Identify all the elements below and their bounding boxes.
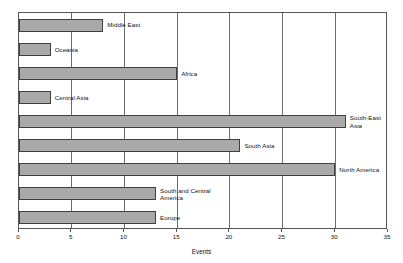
bar-label: North America [339, 166, 379, 173]
bar-row[interactable]: South Asia [19, 139, 386, 152]
bar-row[interactable]: South and Central America [19, 187, 386, 200]
x-tick-label: 15 [173, 233, 180, 240]
bar[interactable] [19, 163, 335, 176]
bar-row[interactable]: North America [19, 163, 386, 176]
bar-label: Oceania [55, 46, 78, 53]
bar-row[interactable]: Central Asia [19, 91, 386, 104]
bar[interactable] [19, 211, 156, 224]
bar-label: Africa [181, 70, 197, 77]
bar-label: Central Asia [55, 94, 89, 101]
tick-mark-25 [281, 229, 282, 232]
x-tick-label: 25 [278, 233, 285, 240]
bar-label: South and Central America [160, 187, 211, 201]
bar-row[interactable]: Oceania [19, 43, 386, 56]
bar-row[interactable]: Europe [19, 211, 386, 224]
bar-row[interactable]: South-East Asia [19, 115, 386, 128]
plot-area: Middle EastOceaniaAfricaCentral AsiaSout… [18, 12, 387, 229]
bar-row[interactable]: Middle East [19, 19, 386, 32]
tick-mark-15 [176, 229, 177, 232]
bar-label: Europe [160, 214, 180, 221]
bar[interactable] [19, 19, 103, 32]
bar[interactable] [19, 43, 51, 56]
tick-mark-20 [228, 229, 229, 232]
bar[interactable] [19, 67, 177, 80]
bar-label: Middle East [107, 21, 140, 28]
bar-chart: Middle EastOceaniaAfricaCentral AsiaSout… [0, 0, 403, 263]
x-tick-label: 35 [384, 233, 391, 240]
x-tick-label: 20 [225, 233, 232, 240]
x-tick-label: 5 [69, 233, 72, 240]
tick-mark-10 [123, 229, 124, 232]
tick-mark-30 [334, 229, 335, 232]
bar-row[interactable]: Africa [19, 67, 386, 80]
x-axis-ticks: 05101520253035 [18, 229, 387, 243]
x-tick-label: 10 [120, 233, 127, 240]
tick-mark-0 [18, 229, 19, 232]
x-tick-label: 30 [331, 233, 338, 240]
bar[interactable] [19, 139, 240, 152]
bar[interactable] [19, 91, 51, 104]
bar[interactable] [19, 115, 346, 128]
tick-mark-35 [387, 229, 388, 232]
bar-series: Middle EastOceaniaAfricaCentral AsiaSout… [19, 13, 386, 228]
x-axis-title: Events [0, 248, 403, 255]
bar-label: South Asia [244, 142, 274, 149]
bar-label: South-East Asia [350, 114, 381, 128]
x-tick-label: 0 [16, 233, 19, 240]
bar[interactable] [19, 187, 156, 200]
tick-mark-5 [70, 229, 71, 232]
